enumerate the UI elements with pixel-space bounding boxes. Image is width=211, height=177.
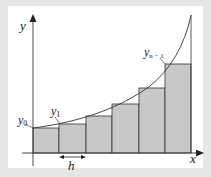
h-left-arrow-icon	[59, 155, 64, 159]
x-axis-label: x	[189, 151, 196, 166]
y-axis-arrow-icon	[30, 14, 37, 22]
rectangle-2	[59, 124, 86, 153]
rectangle-3	[86, 116, 112, 153]
h-label: h	[68, 158, 75, 173]
y1-label: y1	[50, 104, 60, 119]
rectangles	[33, 64, 191, 153]
riemann-sum-diagram: y x y0 y1 yn − 1 h	[0, 0, 211, 177]
y-axis-label: y	[18, 18, 26, 33]
rectangle-4	[112, 104, 139, 153]
x-axis-arrow-icon	[196, 150, 204, 157]
rectangle-5	[139, 88, 165, 153]
h-right-arrow-icon	[81, 155, 86, 159]
rectangle-1	[33, 128, 59, 153]
y0-label: y0	[17, 113, 27, 128]
yn1-label: yn − 1	[143, 45, 164, 60]
rectangle-6	[165, 64, 191, 153]
